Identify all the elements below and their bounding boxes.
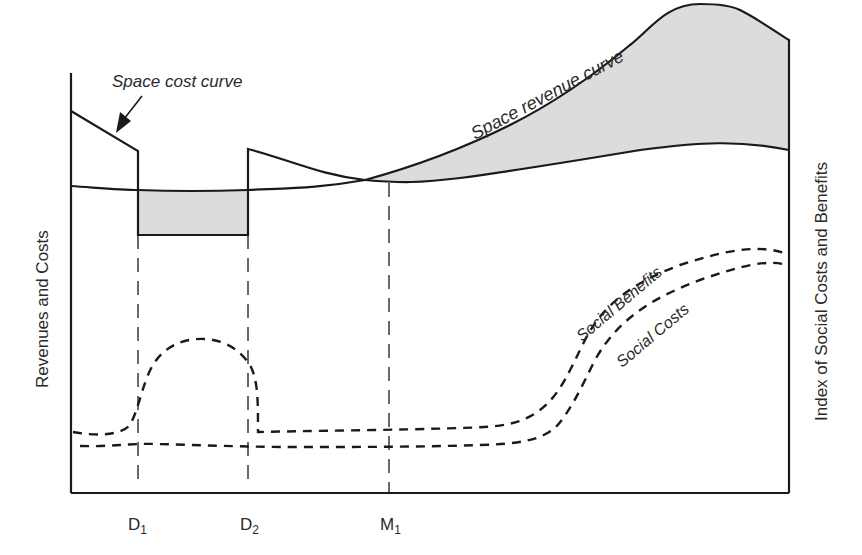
social-costs-curve <box>80 263 789 447</box>
x-tick-d1: D1 <box>128 515 147 537</box>
space-cost-arrow-head <box>116 112 131 133</box>
x-tick-d2-sub: 2 <box>252 523 259 537</box>
space-cost-curve-label: Space cost curve <box>112 72 242 91</box>
right-axis-label: Index of Social Costs and Benefits <box>812 162 831 421</box>
social-benefits-curve <box>73 249 789 435</box>
x-tick-d1-main: D <box>128 515 140 534</box>
x-tick-m1-sub: 1 <box>394 523 401 537</box>
x-tick-m1-main: M <box>380 515 394 534</box>
x-tick-d1-sub: 1 <box>140 523 147 537</box>
x-tick-d2-main: D <box>240 515 252 534</box>
surplus-shaded-region <box>365 4 789 181</box>
loss-shaded-region <box>138 190 248 235</box>
diagram-canvas: Space cost curve Space revenue curve Soc… <box>0 0 862 555</box>
social-costs-label: Social Costs <box>613 300 692 370</box>
x-tick-d2: D2 <box>240 515 259 537</box>
x-tick-m1: M1 <box>380 515 401 537</box>
space-cost-arrow-shaft <box>124 96 142 119</box>
left-axis-label: Revenues and Costs <box>33 230 52 388</box>
